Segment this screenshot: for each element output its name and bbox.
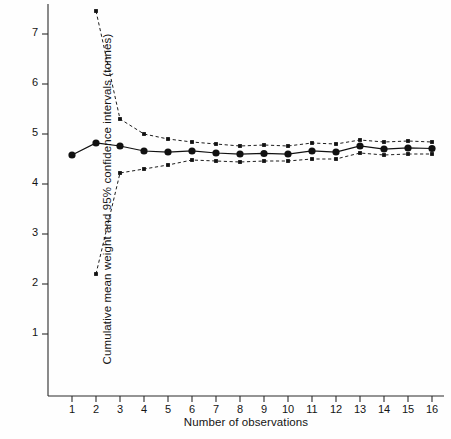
- y-tick-label: 1: [20, 326, 38, 338]
- x-tick-label: 7: [204, 403, 228, 415]
- mean-series: [68, 139, 435, 158]
- chart-figure: Cumulative mean weight and 95% confidenc…: [0, 0, 451, 439]
- x-tick-label: 1: [60, 403, 84, 415]
- y-axis-label: Cumulative mean weight and 95% confidenc…: [101, 4, 113, 394]
- x-tick-label: 11: [300, 403, 324, 415]
- y-tick-label: 2: [20, 276, 38, 288]
- y-tick-label: 5: [20, 126, 38, 138]
- y-tick-label: 3: [20, 226, 38, 238]
- x-axis-label: Number of observations: [48, 416, 444, 428]
- chart-plot-area: [0, 0, 451, 439]
- x-tick-label: 5: [156, 403, 180, 415]
- x-tick-label: 9: [252, 403, 276, 415]
- lower-ci-series: [94, 151, 434, 276]
- upper-ci-series: [94, 9, 434, 148]
- x-tick-label: 6: [180, 403, 204, 415]
- x-tick-label: 3: [108, 403, 132, 415]
- x-tick-label: 13: [348, 403, 372, 415]
- y-axis-ticks: [42, 34, 48, 334]
- y-tick-label: 4: [20, 176, 38, 188]
- x-tick-label: 15: [396, 403, 420, 415]
- y-tick-label: 7: [20, 26, 38, 38]
- x-tick-label: 4: [132, 403, 156, 415]
- x-tick-label: 16: [420, 403, 444, 415]
- x-tick-label: 10: [276, 403, 300, 415]
- x-axis-ticks: [72, 396, 432, 402]
- x-tick-label: 8: [228, 403, 252, 415]
- x-tick-label: 12: [324, 403, 348, 415]
- x-tick-label: 14: [372, 403, 396, 415]
- x-tick-label: 2: [84, 403, 108, 415]
- y-tick-label: 6: [20, 76, 38, 88]
